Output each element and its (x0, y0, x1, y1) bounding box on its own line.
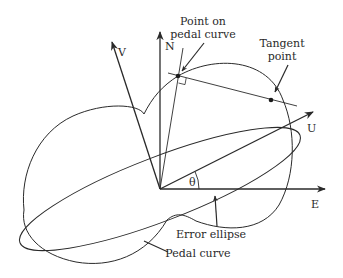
error-ellipse-label: Error ellipse (176, 228, 246, 241)
pedal-curve-label: Pedal curve (165, 247, 230, 260)
point-on-pedal-label-1: Point on (180, 15, 226, 28)
tangent-pointer (275, 65, 288, 92)
right-angle-marker (179, 78, 187, 85)
v-axis (112, 42, 160, 189)
north-label: N (165, 40, 175, 53)
u-axis (160, 112, 313, 189)
pedal-curve-diagram: N E U V θ Point on pedal curve Tangent p… (0, 0, 343, 278)
pedal-curve (23, 63, 292, 263)
v-label: V (117, 46, 127, 59)
point-on-pedal-label-2: pedal curve (170, 28, 235, 41)
theta-label: θ (189, 176, 196, 189)
east-label: E (311, 198, 319, 211)
u-label: U (307, 122, 316, 135)
point-on-pedal-curve (176, 74, 181, 79)
tangent-label-1: Tangent (259, 37, 305, 50)
tangent-point (269, 98, 274, 103)
tangent-label-2: point (268, 50, 297, 63)
perpendicular-line (160, 48, 183, 189)
